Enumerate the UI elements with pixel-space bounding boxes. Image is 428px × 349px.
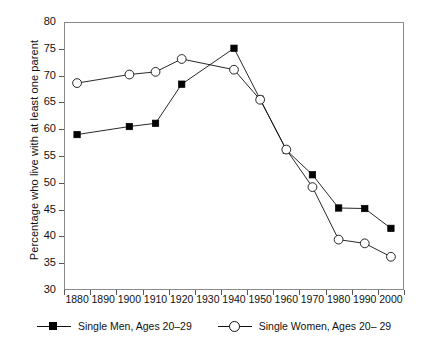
y-axis-tick-mark [59,49,64,50]
plot-area [64,22,404,290]
y-axis-tick-label: 30 [34,284,56,295]
y-axis-tick-label: 60 [34,123,56,134]
chart-container: Percentage who live with at least one pa… [0,0,428,349]
legend-item-single-women: Single Women, Ages 20– 29 [218,320,391,332]
legend-label-single-men: Single Men, Ages 20–29 [78,320,192,332]
x-axis-tick-mark [143,290,144,295]
x-axis-tick-mark [195,290,196,295]
x-axis-tick-mark [116,290,117,295]
x-axis-tick-mark [404,290,405,295]
x-axis-tick-mark [247,290,248,295]
legend-item-single-men: Single Men, Ages 20–29 [37,320,192,332]
y-axis-tick-mark [59,236,64,237]
x-axis-tick-mark [273,290,274,295]
y-axis-tick-mark [59,129,64,130]
x-axis-tick-mark [169,290,170,295]
y-axis-tick-mark [59,76,64,77]
chart-legend: Single Men, Ages 20–29 Single Women, Age… [0,320,428,332]
y-axis-tick-label: 35 [34,257,56,268]
y-axis-tick-label: 55 [34,150,56,161]
y-axis-tick-label: 75 [34,43,56,54]
open-circle-marker-icon [218,320,252,332]
x-axis-tick-mark [299,290,300,295]
y-axis-tick-label: 40 [34,230,56,241]
y-axis-tick-mark [59,102,64,103]
filled-square-marker-icon [37,320,71,332]
x-axis-tick-mark [326,290,327,295]
y-axis-tick-label: 50 [34,177,56,188]
x-axis-tick-mark [221,290,222,295]
x-axis-tick-mark [378,290,379,295]
y-axis-tick-label: 80 [34,16,56,27]
x-axis-tick-mark [64,290,65,295]
y-axis-tick-mark [59,183,64,184]
y-axis-tick-mark [59,263,64,264]
y-axis-tick-label: 65 [34,96,56,107]
x-axis-tick-mark [352,290,353,295]
x-axis-tick-mark [90,290,91,295]
y-axis-tick-mark [59,210,64,211]
y-axis-tick-mark [59,156,64,157]
legend-label-single-women: Single Women, Ages 20– 29 [259,320,391,332]
x-axis-tick-label: 2000 [371,294,411,305]
y-axis-tick-label: 45 [34,204,56,215]
y-axis-tick-label: 70 [34,70,56,81]
